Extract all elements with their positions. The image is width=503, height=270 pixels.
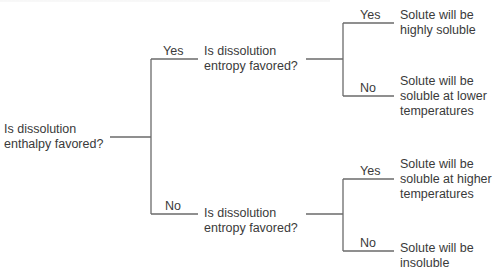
question-line-2: entropy favored?	[204, 59, 298, 74]
edge-label-no: No	[360, 236, 376, 251]
outcome-soluble-higher-temp: Solute will be soluble at higher tempera…	[400, 157, 492, 202]
outcome-line-1: Solute will be	[400, 8, 476, 23]
outcome-line-1: Solute will be	[400, 157, 492, 172]
outcome-line-2: highly soluble	[400, 23, 476, 38]
question-line-1: Is dissolution	[204, 206, 298, 221]
edge-label-yes: Yes	[360, 8, 380, 23]
outcome-line-1: Solute will be	[400, 241, 474, 256]
outcome-highly-soluble: Solute will be highly soluble	[400, 8, 476, 38]
outcome-line-3: temperatures	[400, 187, 492, 202]
entropy-question-lower: Is dissolution entropy favored?	[204, 206, 298, 236]
outcome-insoluble: Solute will be insoluble	[400, 241, 474, 270]
outcome-line-2: soluble at higher	[400, 172, 492, 187]
root-question-line-2: enthalpy favored?	[4, 137, 103, 152]
outcome-line-2: soluble at lower	[400, 89, 487, 104]
outcome-soluble-lower-temp: Solute will be soluble at lower temperat…	[400, 74, 487, 119]
edge-label-yes: Yes	[360, 164, 380, 179]
question-line-1: Is dissolution	[204, 44, 298, 59]
edge-label-no: No	[165, 199, 181, 214]
entropy-question-upper: Is dissolution entropy favored?	[204, 44, 298, 74]
question-line-2: entropy favored?	[204, 221, 298, 236]
root-question-line-1: Is dissolution	[4, 122, 103, 137]
root-question: Is dissolution enthalpy favored?	[4, 122, 103, 152]
outcome-line-3: temperatures	[400, 104, 487, 119]
outcome-line-1: Solute will be	[400, 74, 487, 89]
edge-label-no: No	[360, 81, 376, 96]
edge-label-yes: Yes	[163, 44, 183, 59]
outcome-line-2: insoluble	[400, 256, 474, 270]
